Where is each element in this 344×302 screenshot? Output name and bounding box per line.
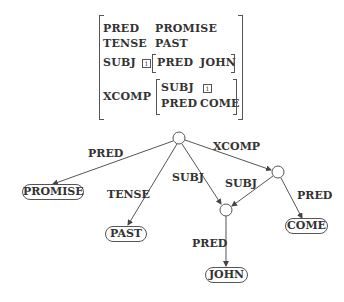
edge-tense — [128, 144, 177, 225]
edge-label-xcomp-subj: SUBJ — [225, 178, 257, 190]
edge-label-pred: PRED — [88, 148, 123, 160]
root-node — [173, 132, 185, 144]
edge-label-xcomp: XCOMP — [213, 141, 260, 153]
leaf-node-past: PAST — [105, 226, 147, 242]
leaf-node-come: COME — [285, 218, 328, 234]
edge-label-subj-pred: PRED — [192, 238, 227, 250]
subj-node — [220, 204, 232, 216]
graph-edges — [0, 0, 344, 302]
leaf-node-john: JOHN — [205, 267, 248, 283]
edge-label-tense: TENSE — [107, 189, 150, 201]
xcomp-node — [272, 166, 284, 178]
edge-label-subj: SUBJ — [172, 172, 204, 184]
leaf-node-promise: PROMISE — [22, 184, 84, 200]
edge-label-xcomp-pred: PRED — [297, 190, 332, 202]
